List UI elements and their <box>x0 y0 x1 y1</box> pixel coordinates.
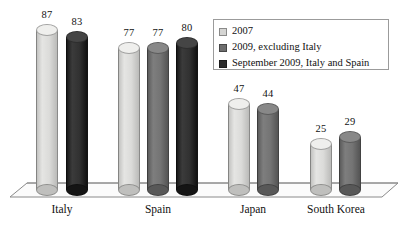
bar-value-label: 44 <box>251 88 285 99</box>
legend-swatch-icon <box>219 44 227 52</box>
bar-spain-4 <box>176 37 198 190</box>
bar-value-label: 80 <box>170 22 204 33</box>
bar-top-ellipse <box>228 98 250 110</box>
bar-body <box>66 37 88 190</box>
bar-japan-6 <box>257 103 279 190</box>
bar-body <box>339 137 361 190</box>
legend-swatch-icon <box>219 60 227 68</box>
category-label-south-korea: South Korea <box>286 203 386 215</box>
legend-item-1: 2009, excluding Italy <box>219 40 383 55</box>
bar-top-ellipse <box>310 138 332 150</box>
bar-top-ellipse <box>176 37 198 49</box>
bar-spain-2 <box>118 42 140 190</box>
bar-top-ellipse <box>257 103 279 115</box>
bar-body <box>147 48 169 190</box>
bar-value-label: 83 <box>60 16 94 27</box>
category-label-italy: Italy <box>12 203 112 215</box>
bar-base-ellipse <box>228 184 250 196</box>
bar-italy-1 <box>66 31 88 190</box>
bar-body <box>36 30 58 190</box>
legend-swatch-icon <box>219 28 227 36</box>
bar-base-ellipse <box>147 184 169 196</box>
category-label-spain: Spain <box>108 203 208 215</box>
bar-value-label: 29 <box>333 116 367 127</box>
bar-italy-0 <box>36 24 58 190</box>
bar-south-korea-7 <box>310 138 332 190</box>
bar-south-korea-8 <box>339 131 361 190</box>
bar-body <box>118 48 140 190</box>
bar-base-ellipse <box>118 184 140 196</box>
bar-body <box>228 104 250 190</box>
bar-base-ellipse <box>257 184 279 196</box>
chart-legend: 20072009, excluding ItalySeptember 2009,… <box>213 19 389 70</box>
bar-top-ellipse <box>36 24 58 36</box>
bar-base-ellipse <box>66 184 88 196</box>
bar-value-label: 87 <box>30 9 64 20</box>
bar-base-ellipse <box>176 184 198 196</box>
bar-base-ellipse <box>339 184 361 196</box>
legend-item-0: 2007 <box>219 24 383 39</box>
bar-base-ellipse <box>310 184 332 196</box>
bar-base-ellipse <box>36 184 58 196</box>
legend-label: 2009, excluding Italy <box>232 42 322 53</box>
bar-body <box>176 43 198 190</box>
bar-spain-3 <box>147 42 169 190</box>
bar-japan-5 <box>228 98 250 190</box>
bar-chart: 878377778047442529 ItalySpainJapanSouth … <box>0 0 406 226</box>
bar-top-ellipse <box>339 131 361 143</box>
bar-body <box>257 109 279 190</box>
legend-item-2: September 2009, Italy and Spain <box>219 56 383 71</box>
legend-label: September 2009, Italy and Spain <box>232 58 369 69</box>
legend-label: 2007 <box>232 26 253 37</box>
